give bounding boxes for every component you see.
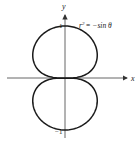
tick-label-y-bottom: −1 xyxy=(55,128,63,136)
x-axis-label: x xyxy=(130,74,135,83)
polar-plot: x y 1 −1 r2= −sin θ xyxy=(0,0,138,145)
tick-label-y-top: 1 xyxy=(59,22,63,30)
y-axis-label: y xyxy=(61,2,66,11)
equation-label: r2= −sin θ xyxy=(79,21,112,30)
